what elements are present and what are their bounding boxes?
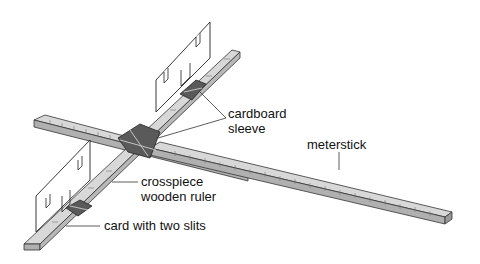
diagram-canvas: cardboard sleeve meterstick crosspiece w… bbox=[0, 0, 480, 264]
label-crosspiece: crosspiece bbox=[141, 175, 203, 189]
label-meterstick: meterstick bbox=[307, 138, 366, 152]
label-sleeve: sleeve bbox=[228, 122, 266, 136]
label-card-two-slits: card with two slits bbox=[104, 219, 206, 233]
label-wooden-ruler: wooden ruler bbox=[141, 190, 216, 204]
label-cardboard: cardboard bbox=[228, 107, 287, 121]
